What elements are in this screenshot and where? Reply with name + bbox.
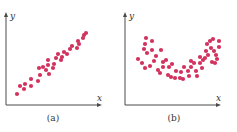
data-point bbox=[60, 55, 64, 59]
data-point bbox=[211, 37, 215, 41]
data-point bbox=[200, 66, 204, 70]
data-point bbox=[41, 65, 45, 69]
data-point bbox=[217, 39, 221, 43]
y-axis-label: y bbox=[9, 11, 16, 21]
data-point bbox=[18, 84, 22, 88]
data-point bbox=[167, 65, 171, 69]
data-point bbox=[29, 84, 33, 88]
data-point bbox=[209, 46, 213, 50]
data-point bbox=[213, 61, 217, 65]
data-points bbox=[136, 36, 221, 81]
data-point bbox=[77, 42, 81, 46]
data-point bbox=[170, 62, 174, 66]
data-point bbox=[56, 52, 60, 56]
data-point bbox=[150, 48, 154, 52]
data-point bbox=[214, 53, 218, 57]
data-point bbox=[46, 63, 50, 67]
x-axis-arrow-icon bbox=[216, 103, 221, 107]
caption-b: (b) bbox=[154, 113, 194, 123]
y-axis-arrow-icon bbox=[4, 12, 8, 17]
data-point bbox=[182, 65, 186, 69]
data-point bbox=[37, 66, 41, 70]
data-point bbox=[148, 64, 152, 68]
data-point bbox=[217, 45, 221, 49]
caption-a: (a) bbox=[33, 113, 73, 123]
data-point bbox=[145, 51, 149, 55]
data-point bbox=[205, 42, 209, 46]
data-point bbox=[192, 61, 196, 65]
scatter-panel-a: y x (a) bbox=[0, 0, 118, 132]
data-point bbox=[203, 56, 207, 60]
data-point bbox=[154, 54, 158, 58]
data-point bbox=[164, 58, 168, 62]
data-point bbox=[144, 36, 148, 40]
data-point bbox=[15, 92, 19, 96]
data-point bbox=[54, 56, 58, 60]
data-point bbox=[174, 69, 178, 73]
data-point bbox=[44, 68, 48, 72]
data-point bbox=[194, 69, 198, 73]
scatter-panel-b: y x (b) bbox=[118, 0, 236, 132]
data-point bbox=[159, 48, 163, 52]
data-point bbox=[51, 66, 55, 70]
data-point bbox=[204, 49, 208, 53]
data-point bbox=[65, 52, 69, 56]
data-point bbox=[75, 46, 79, 50]
data-point bbox=[173, 76, 177, 80]
data-point bbox=[143, 42, 147, 46]
y-axis-label: y bbox=[128, 11, 135, 21]
data-point bbox=[140, 61, 144, 65]
data-point bbox=[23, 82, 27, 86]
data-point bbox=[212, 49, 216, 53]
data-point bbox=[206, 53, 210, 57]
data-point bbox=[161, 65, 165, 69]
data-point bbox=[52, 62, 56, 66]
data-point bbox=[169, 75, 173, 79]
x-axis-label: x bbox=[216, 93, 221, 103]
data-point bbox=[179, 70, 183, 74]
data-point bbox=[150, 39, 154, 43]
data-point bbox=[181, 77, 185, 81]
data-point bbox=[36, 79, 40, 83]
data-point bbox=[189, 65, 193, 69]
data-point bbox=[195, 74, 199, 78]
data-point bbox=[186, 69, 190, 73]
data-point bbox=[70, 44, 74, 48]
x-axis-arrow-icon bbox=[97, 103, 102, 107]
data-point bbox=[142, 47, 146, 51]
data-point bbox=[143, 66, 147, 70]
data-point bbox=[198, 55, 202, 59]
data-point bbox=[187, 74, 191, 78]
data-point bbox=[47, 72, 51, 76]
y-axis-arrow-icon bbox=[123, 12, 127, 17]
data-point bbox=[158, 71, 162, 75]
data-point bbox=[84, 31, 88, 35]
data-point bbox=[198, 61, 202, 65]
data-point bbox=[22, 87, 26, 91]
data-point bbox=[38, 73, 42, 77]
data-points bbox=[15, 31, 88, 96]
data-point bbox=[136, 57, 140, 61]
data-point bbox=[215, 57, 219, 61]
data-point bbox=[46, 58, 50, 62]
data-point bbox=[29, 77, 33, 81]
data-point bbox=[152, 59, 156, 63]
x-axis-label: x bbox=[97, 93, 102, 103]
